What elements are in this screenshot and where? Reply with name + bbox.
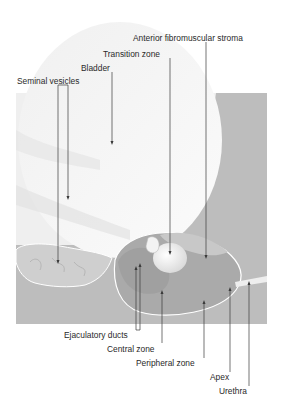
label-apex: Apex (210, 373, 229, 381)
label-peripheral-zone: Peripheral zone (136, 359, 195, 367)
ejaculatory-duct-structure (146, 237, 159, 253)
label-transition-zone: Transition zone (103, 50, 160, 58)
label-ejaculatory-ducts: Ejaculatory ducts (64, 331, 128, 339)
label-urethra: Urethra (219, 387, 247, 395)
anatomy-illustration (0, 0, 284, 399)
label-seminal-vesicles: Seminal vesicles (17, 77, 79, 85)
label-anterior-fibromuscular-stroma: Anterior fibromuscular stroma (133, 34, 243, 42)
label-central-zone: Central zone (107, 345, 155, 353)
label-bladder: Bladder (81, 64, 110, 72)
prostate-anatomy-figure: Anterior fibromuscular stroma Transition… (0, 0, 284, 399)
